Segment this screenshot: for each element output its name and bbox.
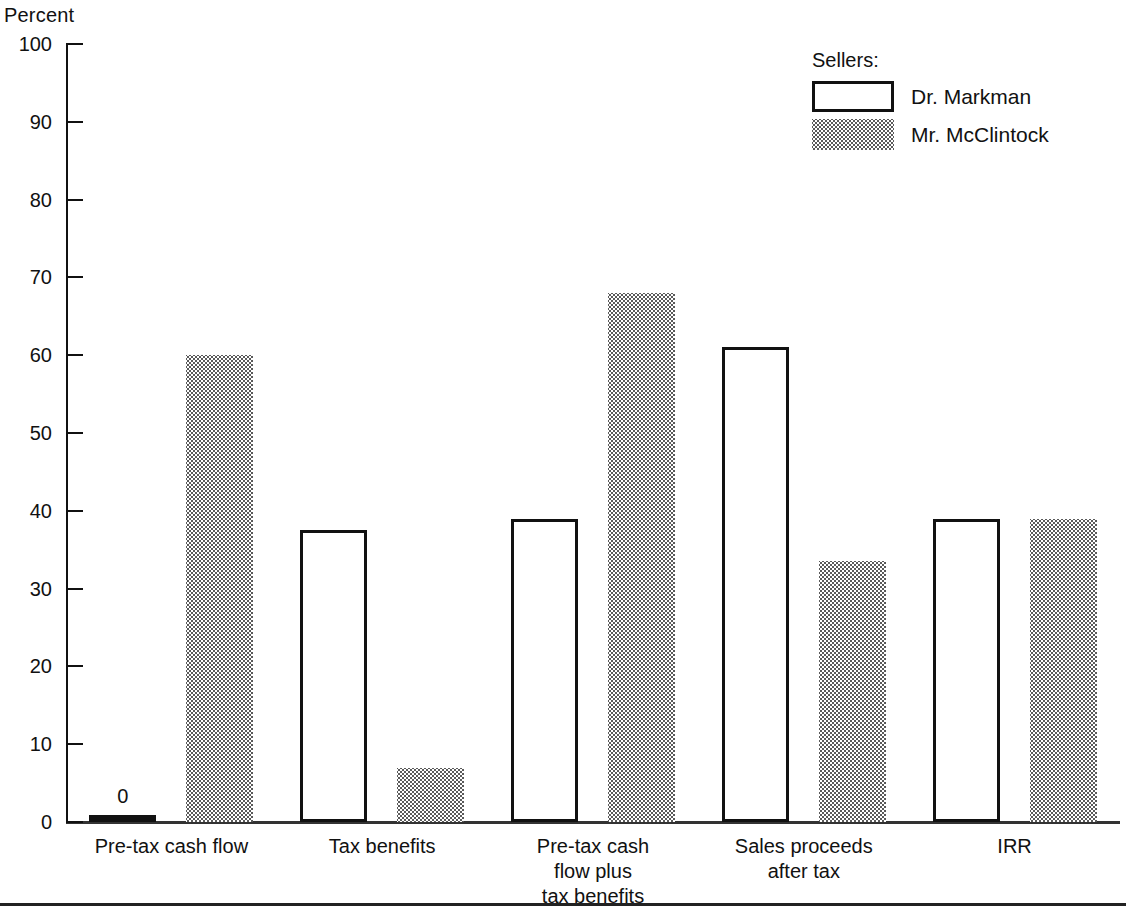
y-tick-label-40: 40 xyxy=(0,501,52,521)
y-tick-label-50: 50 xyxy=(0,423,52,443)
y-tick-label-80: 80 xyxy=(0,190,52,210)
x-label-0: Pre-tax cash flow xyxy=(66,834,277,859)
legend-item-mr-mcclintock[interactable]: Mr. McClintock xyxy=(812,117,1082,152)
bar-dr-markman-0 xyxy=(89,815,156,822)
legend-title: Sellers: xyxy=(812,48,1082,72)
bar-dr-markman-4 xyxy=(933,519,1000,822)
x-label-4: IRR xyxy=(909,834,1120,859)
bar-chart: Percent 0102030405060708090100 0 Pre-tax… xyxy=(0,0,1126,918)
legend-item-dr-markman[interactable]: Dr. Markman xyxy=(812,79,1082,114)
legend-label-mr-mcclintock: Mr. McClintock xyxy=(911,124,1049,146)
bar-dr-markman-1 xyxy=(300,530,367,822)
y-tick-label-90: 90 xyxy=(0,112,52,132)
outline-swatch-icon xyxy=(812,81,894,112)
bar-mr-mcclintock-1 xyxy=(397,768,464,822)
stipple-swatch-icon xyxy=(812,119,894,150)
bar-dr-markman-3 xyxy=(722,347,789,822)
y-axis-title: Percent xyxy=(4,4,74,27)
footer-rule xyxy=(0,903,1126,906)
y-tick-label-20: 20 xyxy=(0,656,52,676)
bar-mr-mcclintock-4 xyxy=(1030,519,1097,822)
bar-value-label-zero: 0 xyxy=(89,786,156,806)
legend: Sellers: Dr. Markman Mr. McClintock xyxy=(812,48,1082,155)
y-tick-label-60: 60 xyxy=(0,345,52,365)
x-label-2: Pre-tax cashflow plustax benefits xyxy=(488,834,699,909)
x-label-1: Tax benefits xyxy=(277,834,488,859)
legend-label-dr-markman: Dr. Markman xyxy=(911,86,1031,108)
y-tick-label-70: 70 xyxy=(0,267,52,287)
bar-mr-mcclintock-3 xyxy=(819,561,886,822)
y-tick-label-0: 0 xyxy=(0,812,52,832)
bar-mr-mcclintock-0 xyxy=(186,355,253,822)
x-label-3: Sales proceedsafter tax xyxy=(698,834,909,884)
y-tick-label-100: 100 xyxy=(0,34,52,54)
y-tick-label-30: 30 xyxy=(0,579,52,599)
y-tick-label-10: 10 xyxy=(0,734,52,754)
bar-mr-mcclintock-2 xyxy=(608,293,675,822)
bar-dr-markman-2 xyxy=(511,519,578,822)
plot-area: 0 xyxy=(66,44,1120,822)
